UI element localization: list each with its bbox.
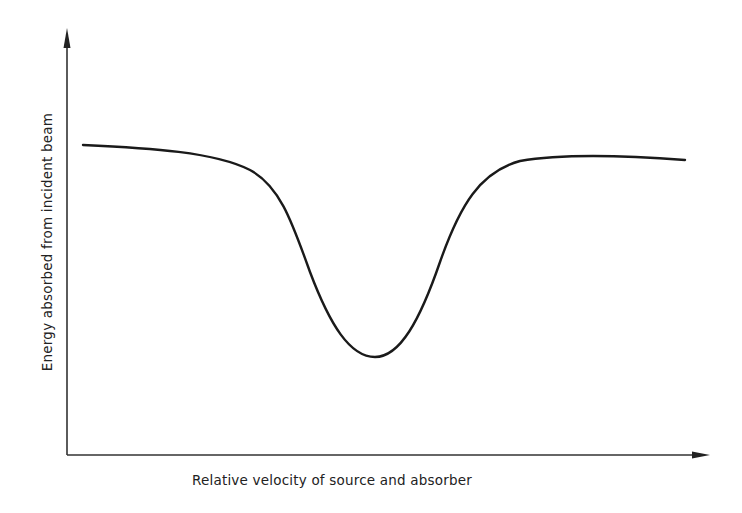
x-axis-arrow-icon (692, 452, 710, 459)
y-axis-arrow-icon (64, 28, 71, 48)
x-axis-label: Relative velocity of source and absorber (192, 472, 472, 488)
y-axis-label: Energy absorbed from incident beam (39, 113, 55, 371)
absorption-curve (83, 145, 685, 357)
chart-canvas (0, 0, 742, 513)
